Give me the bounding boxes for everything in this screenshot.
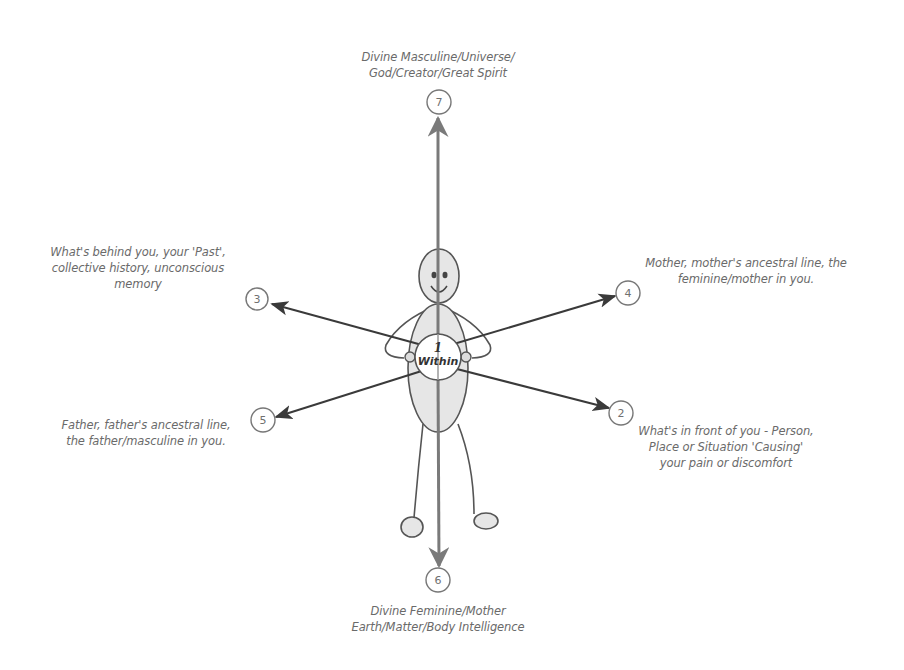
diagram-canvas: 1 Within 7 3 4 5 2 6 Divine Mas	[0, 0, 904, 670]
right-hand	[461, 352, 471, 362]
label-line: Divine Feminine/Mother	[338, 603, 538, 619]
node-3-number: 3	[254, 293, 261, 306]
label-line: Place or Situation 'Causing'	[626, 439, 826, 455]
label-line: your pain or discomfort	[626, 455, 826, 471]
label-line: collective history, unconscious	[30, 260, 246, 276]
left-leg	[414, 424, 423, 518]
label-line: feminine/mother in you.	[626, 271, 866, 287]
center-node-1: 1 Within	[415, 334, 461, 380]
label-line: What's in front of you - Person,	[626, 423, 826, 439]
center-label: Within	[418, 355, 459, 368]
label-line: Father, father's ancestral line,	[46, 417, 246, 433]
label-line: the father/masculine in you.	[46, 433, 246, 449]
label-node-3: What's behind you, your 'Past', collecti…	[30, 244, 246, 292]
node-6-number: 6	[435, 574, 442, 587]
label-node-6: Divine Feminine/Mother Earth/Matter/Body…	[338, 603, 538, 635]
label-line: God/Creator/Great Spirit	[338, 65, 538, 81]
node-5-number: 5	[260, 414, 267, 427]
label-node-7: Divine Masculine/Universe/ God/Creator/G…	[338, 49, 538, 81]
right-foot	[474, 513, 498, 529]
arrow-to-6	[438, 370, 439, 566]
right-eye	[443, 272, 448, 279]
node-6: 6	[426, 568, 450, 592]
left-eye	[432, 272, 437, 279]
label-line: memory	[30, 276, 246, 292]
node-2: 2	[609, 401, 633, 425]
label-line: Earth/Matter/Body Intelligence	[338, 619, 538, 635]
label-line: Divine Masculine/Universe/	[338, 49, 538, 65]
label-node-5: Father, father's ancestral line, the fat…	[46, 417, 246, 449]
stick-figure	[385, 249, 498, 537]
label-line: What's behind you, your 'Past',	[30, 244, 246, 260]
node-3: 3	[246, 288, 268, 310]
seven-directions-diagram: 1 Within 7 3 4 5 2 6	[0, 0, 904, 670]
left-hand	[405, 352, 415, 362]
node-4-number: 4	[625, 287, 632, 300]
right-leg	[458, 424, 474, 514]
left-foot	[401, 517, 423, 537]
node-7: 7	[427, 90, 451, 114]
center-number: 1	[434, 341, 442, 355]
node-5: 5	[251, 408, 275, 432]
label-node-2: What's in front of you - Person, Place o…	[626, 423, 826, 471]
label-line: Mother, mother's ancestral line, the	[626, 255, 866, 271]
label-node-4: Mother, mother's ancestral line, the fem…	[626, 255, 866, 287]
node-2-number: 2	[618, 407, 625, 420]
node-7-number: 7	[436, 96, 443, 109]
